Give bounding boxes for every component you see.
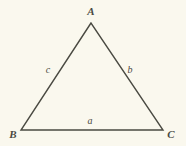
vertex-label-c: C xyxy=(167,129,175,140)
vertex-label-b: B xyxy=(9,129,17,140)
triangle-figure: A B C a b c xyxy=(0,0,186,146)
triangle-shape xyxy=(0,0,186,146)
side-label-b: b xyxy=(128,65,133,75)
side-label-a: a xyxy=(88,116,93,126)
vertex-label-a: A xyxy=(87,6,95,17)
triangle-outline xyxy=(21,23,163,130)
side-label-c: c xyxy=(46,65,50,75)
